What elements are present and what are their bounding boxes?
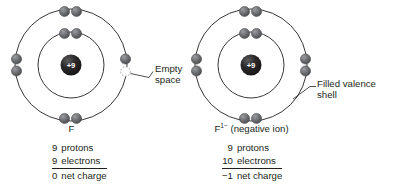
table-row: 9 protons bbox=[52, 142, 107, 155]
left-nucleus-charge-label: +9 bbox=[67, 61, 76, 70]
right-outer-electron bbox=[300, 54, 310, 64]
left-inner-electron bbox=[59, 28, 69, 38]
figure-canvas: +9 +9 bbox=[0, 0, 401, 189]
left-net-charge-label: net charge bbox=[61, 169, 106, 183]
left-outer-electron bbox=[71, 6, 81, 16]
right-electrons-label: electrons bbox=[237, 155, 282, 169]
right-inner-electron bbox=[251, 28, 261, 38]
right-net-charge-value: −1 bbox=[222, 169, 237, 183]
right-protons-label: protons bbox=[237, 142, 282, 155]
filled-valence-shell-callout: Filled valence shell bbox=[317, 79, 376, 100]
empty-space-leader-line bbox=[131, 74, 150, 78]
right-inner-electron bbox=[239, 28, 249, 38]
empty-space-callout-line1: Empty bbox=[155, 63, 182, 74]
filled-valence-callout-line1: Filled valence bbox=[317, 78, 376, 89]
right-atom-group: +9 bbox=[191, 6, 316, 123]
left-outer-electron bbox=[11, 66, 21, 76]
right-outer-electron bbox=[239, 6, 249, 16]
table-row: 10 electrons bbox=[222, 155, 282, 169]
left-electrons-count: 9 bbox=[52, 155, 61, 169]
filled-valence-callout-line2: shell bbox=[317, 90, 376, 101]
right-outer-electron bbox=[191, 66, 201, 76]
empty-space-leader-line-kick bbox=[149, 72, 153, 78]
right-nucleus-charge-label: +9 bbox=[247, 61, 256, 70]
right-species-label: F1− (negative ion) bbox=[180, 124, 323, 135]
left-atom-group: +9 bbox=[11, 6, 153, 123]
left-protons-count: 9 bbox=[52, 142, 61, 155]
left-outer-electron bbox=[59, 6, 69, 16]
table-row: 9 electrons bbox=[52, 155, 107, 169]
left-electrons-label: electrons bbox=[61, 155, 106, 169]
right-species-charge: 1− bbox=[220, 122, 228, 129]
left-net-charge-value: 0 bbox=[52, 169, 61, 183]
right-charge-tally-table: 9 protons 10 electrons −1 net charge bbox=[222, 142, 282, 183]
right-net-charge-label: net charge bbox=[237, 169, 282, 183]
right-protons-count: 9 bbox=[222, 142, 237, 155]
left-species-symbol: F bbox=[69, 123, 75, 134]
table-row: −1 net charge bbox=[222, 169, 282, 183]
table-row: 9 protons bbox=[222, 142, 282, 155]
left-empty-valence-slot-icon bbox=[121, 67, 131, 77]
left-protons-label: protons bbox=[61, 142, 106, 155]
left-outer-electron bbox=[11, 54, 21, 64]
left-inner-electron bbox=[71, 28, 81, 38]
empty-space-callout: Empty space bbox=[155, 64, 182, 85]
table-row: 0 net charge bbox=[52, 169, 107, 183]
right-outer-electron bbox=[251, 6, 261, 16]
right-outer-electron bbox=[191, 54, 201, 64]
empty-space-callout-line2: space bbox=[155, 75, 182, 86]
right-species-suffix: (negative ion) bbox=[228, 123, 289, 134]
left-charge-tally-table: 9 protons 9 electrons 0 net charge bbox=[52, 142, 107, 183]
left-species-label: F bbox=[0, 124, 143, 135]
right-outer-electron bbox=[300, 66, 310, 76]
left-outer-electron bbox=[120, 54, 130, 64]
right-electrons-count: 10 bbox=[222, 155, 237, 169]
